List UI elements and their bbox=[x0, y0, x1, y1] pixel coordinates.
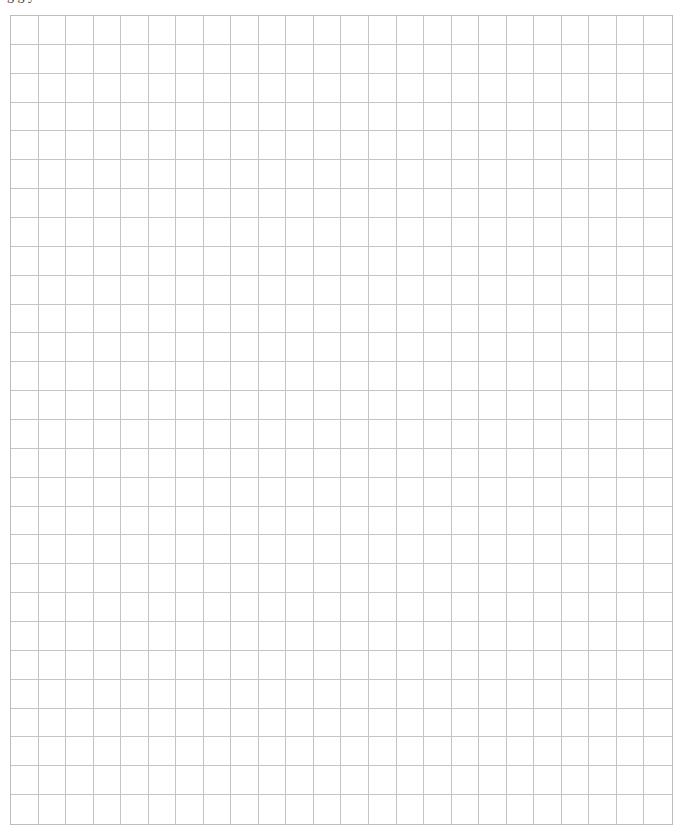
grid-cell bbox=[39, 420, 67, 449]
grid-cell bbox=[204, 103, 232, 132]
grid-cell bbox=[94, 160, 122, 189]
grid-cell bbox=[562, 333, 590, 362]
grid-cell bbox=[204, 535, 232, 564]
grid-cell bbox=[341, 449, 369, 478]
grid-cell bbox=[452, 276, 480, 305]
grid-cell bbox=[66, 420, 94, 449]
grid-cell bbox=[231, 593, 259, 622]
grid-cell bbox=[231, 160, 259, 189]
grid-cell bbox=[424, 160, 452, 189]
grid-cell bbox=[204, 651, 232, 680]
grid-cell bbox=[424, 45, 452, 74]
grid-cell bbox=[534, 680, 562, 709]
grid-cell bbox=[286, 189, 314, 218]
grid-cell bbox=[507, 276, 535, 305]
grid-cell bbox=[589, 709, 617, 738]
grid-cell bbox=[66, 391, 94, 420]
grid-cell bbox=[94, 218, 122, 247]
grid-cell bbox=[39, 709, 67, 738]
grid-cell bbox=[314, 507, 342, 536]
grid-cell bbox=[176, 535, 204, 564]
grid-cell bbox=[149, 593, 177, 622]
grid-cell bbox=[286, 131, 314, 160]
grid-cell bbox=[149, 45, 177, 74]
grid-cell bbox=[94, 564, 122, 593]
grid-cell bbox=[644, 680, 672, 709]
grid-cell bbox=[369, 507, 397, 536]
grid-cell bbox=[314, 74, 342, 103]
grid-cell bbox=[479, 680, 507, 709]
grid-cell bbox=[204, 593, 232, 622]
grid-cell bbox=[94, 622, 122, 651]
grid-cell bbox=[259, 247, 287, 276]
grid-cell bbox=[507, 622, 535, 651]
grid-cell bbox=[589, 651, 617, 680]
grid-cell bbox=[286, 680, 314, 709]
grid-cell bbox=[231, 247, 259, 276]
grid-cell bbox=[94, 74, 122, 103]
grid-cell bbox=[176, 795, 204, 824]
grid-cell bbox=[617, 333, 645, 362]
grid-cell bbox=[534, 218, 562, 247]
grid-cell bbox=[11, 420, 39, 449]
grid-cell bbox=[204, 218, 232, 247]
grid-cell bbox=[617, 391, 645, 420]
grid-cell bbox=[11, 795, 39, 824]
grid-cell bbox=[204, 45, 232, 74]
grid-cell bbox=[424, 535, 452, 564]
grid-cell bbox=[39, 247, 67, 276]
grid-cell bbox=[176, 507, 204, 536]
grid-cell bbox=[39, 103, 67, 132]
grid-cell bbox=[562, 160, 590, 189]
grid-cell bbox=[424, 737, 452, 766]
grid-cell bbox=[286, 16, 314, 45]
grid-cell bbox=[121, 218, 149, 247]
grid-cell bbox=[66, 218, 94, 247]
grid-cell bbox=[39, 622, 67, 651]
grid-cell bbox=[259, 103, 287, 132]
grid-cell bbox=[94, 420, 122, 449]
grid-cell bbox=[259, 276, 287, 305]
grid-cell bbox=[149, 362, 177, 391]
grid-cell bbox=[562, 362, 590, 391]
grid-cell bbox=[341, 189, 369, 218]
grid-cell bbox=[562, 622, 590, 651]
grid-cell bbox=[314, 160, 342, 189]
grid-cell bbox=[231, 333, 259, 362]
grid-cell bbox=[397, 391, 425, 420]
grid-cell bbox=[259, 478, 287, 507]
grid-cell bbox=[479, 362, 507, 391]
grid-cell bbox=[397, 709, 425, 738]
grid-cell bbox=[562, 507, 590, 536]
grid-cell bbox=[176, 391, 204, 420]
grid-cell bbox=[479, 276, 507, 305]
grid-cell bbox=[397, 218, 425, 247]
grid-cell bbox=[369, 362, 397, 391]
grid-cell bbox=[479, 622, 507, 651]
grid-cell bbox=[562, 305, 590, 334]
grid-cell bbox=[617, 680, 645, 709]
grid-cell bbox=[507, 737, 535, 766]
grid-cell bbox=[341, 651, 369, 680]
grid-cell bbox=[231, 45, 259, 74]
grid-cell bbox=[149, 622, 177, 651]
grid-cell bbox=[341, 45, 369, 74]
grid-cell bbox=[39, 160, 67, 189]
grid-cell bbox=[397, 622, 425, 651]
grid-cell bbox=[589, 131, 617, 160]
grid-cell bbox=[424, 651, 452, 680]
grid-cell bbox=[534, 160, 562, 189]
grid-cell bbox=[589, 535, 617, 564]
grid-cell bbox=[121, 420, 149, 449]
grid-cell bbox=[231, 795, 259, 824]
grid-cell bbox=[204, 131, 232, 160]
grid-cell bbox=[39, 218, 67, 247]
grid-cell bbox=[176, 449, 204, 478]
grid-cell bbox=[507, 535, 535, 564]
grid-cell bbox=[231, 391, 259, 420]
grid-cell bbox=[259, 507, 287, 536]
grid-cell bbox=[644, 189, 672, 218]
grid-cell bbox=[369, 276, 397, 305]
grid-cell bbox=[534, 131, 562, 160]
grid-cell bbox=[644, 74, 672, 103]
